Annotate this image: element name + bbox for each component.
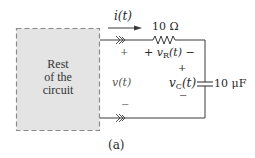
capacitor-minus: − xyxy=(179,91,187,101)
resistor-minus: − xyxy=(185,46,194,59)
circuit-diagram: Rest of the circuit i(t) 10 Ω + + vR(t) … xyxy=(0,0,255,158)
resistor-voltage-label: + vR(t) − xyxy=(144,47,195,60)
terminal-minus: − xyxy=(121,100,129,110)
resistor-plus: + xyxy=(144,46,153,59)
capacitor-plus: + xyxy=(178,63,186,73)
figure-caption: (a) xyxy=(108,139,125,151)
current-arrowhead-icon xyxy=(134,26,142,31)
terminal-voltage-label: v(t) xyxy=(112,77,131,88)
terminal-plus: + xyxy=(120,47,128,57)
capacitor-arg: (t) xyxy=(182,76,196,90)
block-line-3: circuit xyxy=(16,84,100,97)
resistor-arg: (t) xyxy=(169,46,182,59)
current-label: i(t) xyxy=(114,10,132,22)
capacitor-v: v xyxy=(169,76,176,90)
capacitor-voltage-label: vC(t) xyxy=(169,77,196,91)
capacitor-value: 10 μF xyxy=(214,78,246,89)
rest-of-circuit-label: Rest of the circuit xyxy=(16,58,100,97)
resistor-symbol xyxy=(153,36,175,44)
resistor-value: 10 Ω xyxy=(152,21,179,32)
